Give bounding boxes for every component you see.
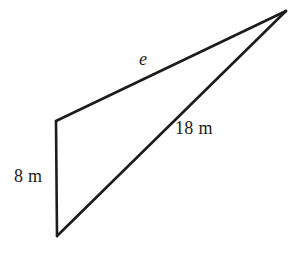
edge-lower-18m: [57, 11, 286, 236]
side-label-18m: 18 m: [175, 119, 213, 137]
edge-vertical-8m: [56, 121, 57, 236]
triangle-edges: [56, 11, 286, 236]
triangle-shape: [0, 0, 288, 258]
side-label-8m: 8 m: [14, 167, 42, 185]
edge-upper-e: [56, 11, 286, 121]
geometry-figure: 8 m 18 m e: [0, 0, 288, 258]
side-label-e: e: [139, 50, 147, 68]
